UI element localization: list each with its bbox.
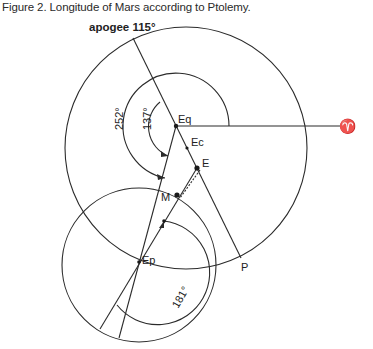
label-angle-137: 137° <box>141 107 153 130</box>
e-m-double-line <box>180 170 200 198</box>
label-ep: Ep <box>142 254 155 266</box>
label-eq: Eq <box>178 113 191 125</box>
point-mean <box>162 219 166 223</box>
point-ep <box>137 260 141 264</box>
arrowhead-252 <box>157 174 165 180</box>
label-angle-181: 181° <box>169 284 191 310</box>
point-m <box>174 192 179 197</box>
eq-ep-line <box>119 126 176 338</box>
label-p: P <box>241 261 248 273</box>
arrowhead-137 <box>161 151 168 157</box>
point-e <box>194 165 199 170</box>
label-apogee: apogee 115° <box>89 21 156 33</box>
label-ec: Ec <box>191 136 204 148</box>
ptolemy-mars-diagram: apogee 115° Eq Ec E M Ep P ♈ 252° 137° 1… <box>0 0 373 349</box>
label-angle-252: 252° <box>113 107 125 130</box>
point-ec <box>185 146 188 149</box>
arc-181 <box>117 221 210 325</box>
aries-symbol-icon: ♈ <box>339 118 356 135</box>
label-m: M <box>161 191 170 203</box>
label-e: E <box>202 157 209 169</box>
